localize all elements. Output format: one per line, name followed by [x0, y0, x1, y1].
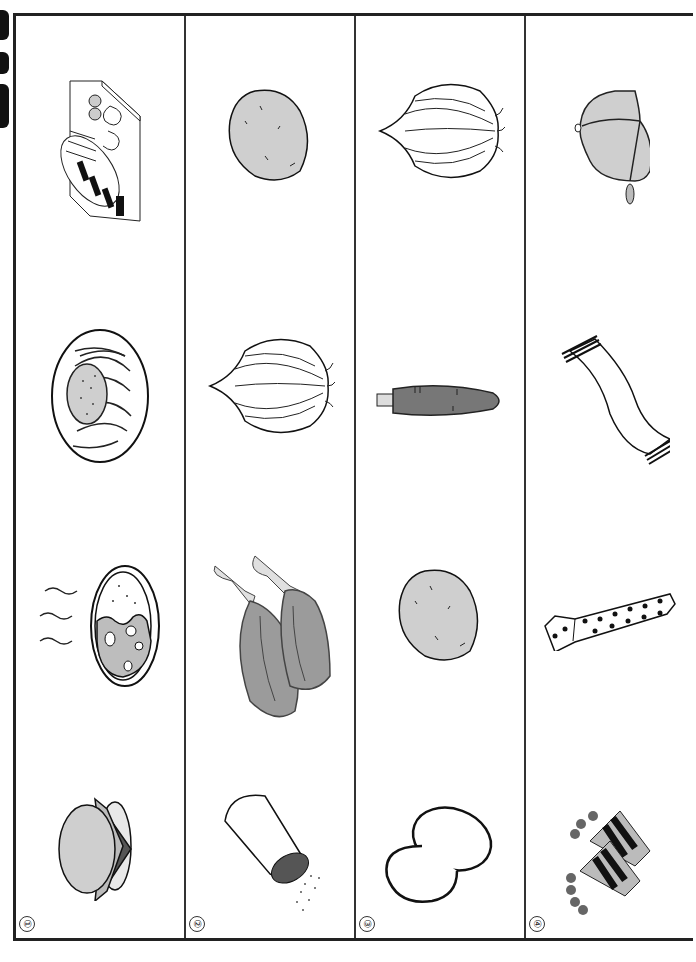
cap-icon: [526, 71, 694, 221]
item-number: ④: [529, 916, 545, 932]
column-3: ③: [356, 16, 526, 938]
onion-icon: [186, 296, 354, 476]
potato-icon: [186, 71, 354, 201]
column-1: ①: [16, 16, 186, 938]
spaghetti-icon: [16, 296, 184, 496]
hamburger-icon: [16, 766, 184, 926]
curry-icon: [16, 536, 184, 716]
bento-icon: [16, 66, 184, 236]
necktie-icon: [526, 561, 694, 681]
gloves-icon: [526, 796, 694, 926]
carrot-icon: [356, 326, 524, 476]
meat-icon: [186, 521, 354, 751]
salt-shaker-icon: [186, 766, 354, 926]
item-number: ①: [19, 916, 35, 932]
item-number: ③: [359, 916, 375, 932]
eggs-icon: [356, 786, 524, 926]
item-number: ②: [189, 916, 205, 932]
worksheet: ①: [13, 13, 693, 941]
column-2: ②: [186, 16, 356, 938]
potato-icon: [356, 546, 524, 686]
scarf-icon: [526, 306, 694, 486]
onion-icon: [356, 56, 524, 206]
column-4: ④: [526, 16, 696, 938]
title-fragment: [0, 0, 11, 128]
